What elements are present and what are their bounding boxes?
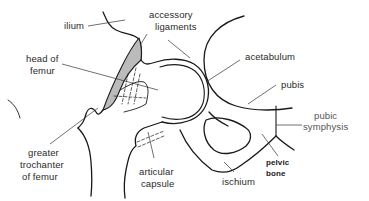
- leader-ischium: [224, 162, 234, 172]
- label-head-of-femur-line2: femur: [30, 65, 55, 76]
- leader-accessory-ligaments-2: [168, 40, 190, 58]
- label-greater-trochanter-line2: trochanter: [20, 159, 64, 170]
- label-pelvic-bone-line2: bone: [266, 169, 286, 179]
- leader-articular-capsule: [148, 132, 154, 158]
- leader-accessory-ligaments: [141, 34, 147, 44]
- label-greater-trochanter-line3: of femur: [22, 171, 58, 182]
- hip-joint-diagram: ilium accessory ligaments head of femur …: [0, 0, 369, 201]
- leader-head-of-femur: [62, 64, 158, 90]
- leader-greater-trochanter: [50, 108, 98, 144]
- label-accessory-ligaments-line1: accessory: [149, 9, 193, 20]
- label-acetabulum: acetabulum: [245, 51, 295, 62]
- label-greater-trochanter-line1: greater: [28, 147, 59, 158]
- label-head-of-femur-line1: head of: [26, 53, 58, 64]
- label-pubis: pubis: [281, 79, 304, 90]
- label-ischium: ischium: [222, 176, 255, 187]
- label-articular-capsule-line2: capsule: [141, 178, 174, 189]
- label-articular-capsule-line1: articular: [139, 166, 174, 177]
- label-accessory-ligaments-line2: ligaments: [155, 21, 197, 32]
- label-pubic-symphysis-line1: pubic: [314, 110, 337, 121]
- label-pubic-symphysis-line2: symphysis: [303, 121, 348, 132]
- label-pelvic-bone-line1: pelvic: [266, 158, 289, 168]
- label-ilium: ilium: [64, 20, 84, 31]
- leader-acetabulum: [206, 60, 240, 82]
- leader-pubis: [248, 85, 276, 104]
